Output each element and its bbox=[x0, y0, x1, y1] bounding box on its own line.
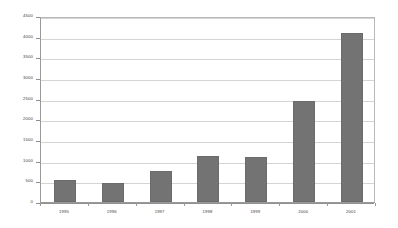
x-tick-label: 1995 bbox=[40, 209, 88, 215]
bar bbox=[341, 33, 363, 202]
y-axis: 050010001500200025003000350040004500 bbox=[0, 17, 40, 203]
plot-area bbox=[40, 17, 375, 203]
x-tick-label: 1998 bbox=[184, 209, 232, 215]
y-tick-label: 3000 bbox=[23, 75, 33, 80]
y-tick-label: 4500 bbox=[23, 13, 33, 18]
x-axis: 1995199619971998199920002001 bbox=[40, 203, 375, 225]
x-tick-label: 1999 bbox=[231, 209, 279, 215]
bar bbox=[150, 171, 172, 202]
y-tick-label: 1000 bbox=[23, 158, 33, 163]
bar bbox=[197, 156, 219, 202]
x-tick-mark bbox=[279, 203, 280, 206]
x-tick-label: 1997 bbox=[136, 209, 184, 215]
x-tick-mark bbox=[88, 203, 89, 206]
x-tick-mark bbox=[40, 203, 41, 206]
x-tick-mark bbox=[136, 203, 137, 206]
y-tick-label: 0 bbox=[31, 199, 33, 204]
x-tick-label: 2001 bbox=[327, 209, 375, 215]
y-tick-label: 2500 bbox=[23, 96, 33, 101]
y-tick-label: 2000 bbox=[23, 116, 33, 121]
bar bbox=[102, 183, 124, 202]
bar bbox=[293, 101, 315, 202]
y-tick-label: 500 bbox=[26, 178, 33, 183]
bars-layer bbox=[41, 18, 374, 202]
bar bbox=[245, 157, 267, 202]
x-tick-label: 1996 bbox=[88, 209, 136, 215]
y-tick-label: 4000 bbox=[23, 34, 33, 39]
x-tick-label: 2000 bbox=[279, 209, 327, 215]
x-tick-mark bbox=[231, 203, 232, 206]
y-tick-label: 1500 bbox=[23, 137, 33, 142]
bar-chart: 050010001500200025003000350040004500 199… bbox=[0, 0, 398, 228]
x-tick-mark bbox=[375, 203, 376, 206]
x-tick-mark bbox=[184, 203, 185, 206]
bar bbox=[54, 180, 76, 202]
y-tick-label: 3500 bbox=[23, 54, 33, 59]
x-tick-mark bbox=[327, 203, 328, 206]
